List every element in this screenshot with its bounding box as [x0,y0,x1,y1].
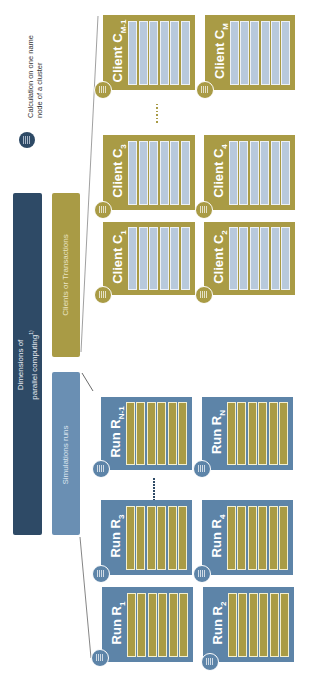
slot [279,506,288,570]
client-box-c2: Client C2 [204,222,295,295]
slot [248,506,257,570]
legend-text: Calculation on one name node of a cluste… [26,28,48,118]
server-node-icon [92,460,110,478]
slot [248,402,257,465]
slot [157,402,166,465]
slot [258,506,267,570]
slot [128,141,137,205]
slot [169,593,178,657]
slot [260,227,269,290]
ellipsis-dots [156,104,158,124]
run-title: Run RN [209,397,225,467]
ellipsis-dots [153,478,155,500]
client-title: Client CM [212,16,228,86]
server-node-icon [94,201,112,219]
slot [170,227,179,290]
client-box-cm-1: Client CM-1 [103,15,195,90]
slot [181,21,190,85]
slot [279,402,288,465]
slot [178,402,187,465]
server-node-icon [94,81,112,99]
client-title: Client CM-1 [110,16,126,86]
slot [128,21,137,85]
slot [250,21,259,85]
server-node-icon [94,286,112,304]
slot [269,506,278,570]
slot [128,227,137,290]
client-box-c3: Client C3 [103,135,195,210]
run-box-r3: Run R3 [101,500,192,575]
run-box-r1: Run R1 [102,587,193,662]
server-node-icon [195,286,213,304]
slot [149,21,158,85]
slot [250,227,259,290]
run-title: Run R4 [209,501,225,571]
slot [271,21,280,85]
slot [229,227,238,290]
run-box-r2: Run R2 [203,587,294,662]
server-node-icon [92,565,110,583]
client-box-cm: Client CM [205,15,295,90]
slot [240,21,249,85]
slot [249,593,258,657]
simulations-label: Simulations runs [61,395,71,515]
slot [271,141,280,205]
slot [238,593,247,657]
slot [259,593,268,657]
slot [160,141,169,205]
run-title: Run R2 [210,588,226,658]
server-node-icon [19,132,35,148]
slot [270,593,279,657]
slot [137,593,146,657]
client-title: Client C4 [211,136,227,206]
slot [127,593,136,657]
slot [239,227,248,290]
slot [136,402,145,465]
run-box-rn-1: Run RN-1 [101,397,192,470]
slot [178,506,187,570]
slot [280,593,289,657]
slot [126,506,135,570]
run-box-rn: Run RN [202,397,293,470]
slot [181,141,190,205]
slot [260,141,269,205]
slot [160,21,169,85]
slot [229,141,238,205]
slot [230,21,239,85]
slot [170,21,179,85]
server-node-icon [193,460,211,478]
slot [237,506,246,570]
slot [261,21,270,85]
slot [227,402,236,465]
slot [148,593,157,657]
slot [250,141,259,205]
server-node-icon [195,201,213,219]
slot [181,227,190,290]
slot [258,402,267,465]
slot [269,402,278,465]
slot [158,593,167,657]
slot [168,506,177,570]
run-title: Run R1 [109,588,125,658]
slot [281,141,290,205]
slot [281,227,290,290]
run-title: Run RN-1 [108,397,124,467]
slot [228,593,237,657]
run-box-r4: Run R4 [202,500,293,575]
server-node-icon [201,653,219,671]
client-box-c1: Client C1 [103,222,195,295]
server-node-icon [91,649,109,667]
dimensions-title: Dimensions of parallel computing1) [16,295,38,435]
slot [271,227,280,290]
server-node-icon [193,565,211,583]
slot [160,227,169,290]
slot [227,506,236,570]
slot [149,141,158,205]
slot [139,141,148,205]
run-title: Run R3 [108,501,124,571]
client-box-c4: Client C4 [204,135,295,210]
slot [157,506,166,570]
slot [239,141,248,205]
slot [149,227,158,290]
client-title: Client C2 [211,222,227,292]
